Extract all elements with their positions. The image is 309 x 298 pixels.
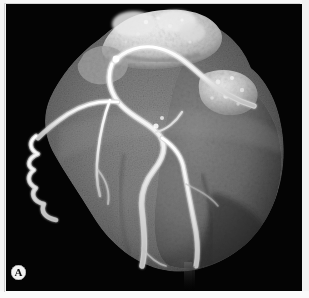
figure-panel: A [0,0,309,298]
volume-render-graphic [6,4,302,291]
ct-angiogram-image [6,4,302,291]
film-grain-overlay [6,4,302,291]
panel-label-badge: A [11,265,26,280]
frame-rule-left [4,3,5,292]
page-margin-right [302,0,309,298]
page-margin-bottom [0,291,309,298]
panel-label-text: A [15,267,23,278]
